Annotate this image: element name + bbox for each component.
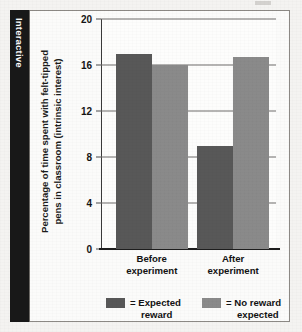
gridline	[101, 19, 276, 20]
chart-legend: = Expectedreward= No rewardexpected	[84, 297, 284, 327]
legend-item: = Expectedreward	[106, 297, 181, 321]
legend-label-line2: reward	[130, 309, 181, 321]
x-group-label-line: After	[193, 253, 273, 265]
legend-label-line1: = Expected	[130, 297, 181, 308]
x-axis-labels: BeforeexperimentAfterexperiment	[101, 253, 276, 283]
x-group-label-line: Before	[112, 253, 192, 265]
y-tick-label: 12	[81, 106, 92, 117]
legend-label-line1: = No reward	[226, 297, 281, 308]
legend-item: = No rewardexpected	[202, 297, 281, 321]
y-tick-label: 20	[81, 14, 92, 25]
scan-artifact	[255, 1, 271, 5]
legend-swatch	[106, 298, 125, 308]
x-group-label: Afterexperiment	[193, 253, 273, 277]
y-axis-line	[101, 19, 102, 249]
legend-label-line2: expected	[226, 309, 281, 321]
interactive-tab-label: Interactive	[10, 18, 29, 68]
bar	[152, 65, 188, 249]
plot-wrapper: 048121620 BeforeexperimentAfterexperimen…	[70, 19, 284, 321]
y-axis-title-line1: Percentage of time spent with felt-tippe…	[39, 22, 52, 262]
chart-panel: Percentage of time spent with felt-tippe…	[29, 10, 290, 322]
legend-label: = Expectedreward	[130, 297, 181, 321]
y-tick-label: 8	[86, 152, 92, 163]
x-group-label-line: experiment	[193, 265, 273, 277]
y-tick-label: 4	[86, 198, 92, 209]
legend-label: = No rewardexpected	[226, 297, 281, 321]
y-axis-title-line2: pens in classroom (intrinsic interest)	[51, 22, 64, 262]
x-group-label-line: experiment	[112, 265, 192, 277]
y-axis-tick-labels: 048121620	[70, 19, 96, 249]
legend-swatch	[202, 298, 221, 308]
bar	[233, 57, 269, 249]
bar	[116, 54, 152, 250]
bar	[197, 146, 233, 250]
y-tick-label: 0	[86, 244, 92, 255]
plot-area	[101, 19, 276, 249]
y-axis-title: Percentage of time spent with felt-tippe…	[33, 19, 69, 259]
y-tick-label: 16	[81, 60, 92, 71]
interactive-side-tab[interactable]: Interactive	[10, 10, 29, 322]
x-group-label: Beforeexperiment	[112, 253, 192, 277]
